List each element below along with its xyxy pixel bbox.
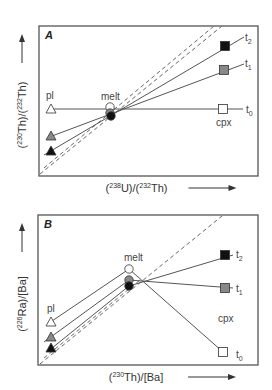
panel-a: Aplmeltcpxt0t1t2(238U)/(232Th)(230Th)/(2… [16, 26, 258, 194]
marker-pl-t2-triangle [46, 343, 56, 352]
marker-melt-t0-circle [125, 265, 133, 273]
label-t0: t0 [246, 104, 253, 117]
x-axis-label: (230Th)/[Ba] [109, 371, 163, 383]
label-t1: t1 [236, 283, 243, 296]
label-t1: t1 [245, 58, 252, 71]
marker-melt-t2-circle [125, 282, 133, 290]
diagram: Aplmeltcpxt0t1t2(238U)/(232Th)(230Th)/(2… [0, 0, 272, 390]
marker-cpx-t1-square [220, 66, 229, 75]
y-arrowhead-icon [19, 223, 25, 231]
isochron-line-t2 [44, 37, 244, 155]
label-t2: t2 [245, 32, 252, 45]
panel-label: B [44, 218, 52, 230]
equiline-dashed [40, 26, 222, 174]
label-cpx: cpx [218, 313, 234, 324]
marker-pl-t2-triangle [46, 146, 56, 155]
panel-b: Bplmeltcpxt0t1t2(230Th)/[Ba](226Ra)/[Ba] [16, 215, 258, 383]
marker-cpx-t0-square [219, 348, 228, 357]
marker-melt-t2-circle [107, 112, 115, 120]
label-melt: melt [124, 252, 143, 263]
label-pl: pl [47, 303, 55, 314]
label-t0: t0 [236, 349, 243, 362]
label-t2: t2 [236, 249, 243, 262]
label-cpx: cpx [216, 117, 232, 128]
panel-label: A [44, 29, 53, 41]
isochron-line-melt-pl-t1 [44, 280, 129, 342]
marker-cpx-t2-square [221, 42, 230, 51]
isochron-line-t2 [129, 255, 233, 286]
label-melt: melt [101, 91, 120, 102]
x-axis-label: (238U)/(232Th) [106, 182, 168, 194]
marker-pl-t0-triangle [46, 317, 56, 326]
x-arrowhead-icon [228, 374, 236, 380]
marker-cpx-t0-square [219, 105, 228, 114]
equiline-dashed [44, 26, 214, 168]
label-pl: pl [46, 90, 54, 101]
y-axis-label: (230Th)/(232Th) [16, 82, 28, 149]
equiline-dashed [44, 280, 140, 358]
x-arrowhead-icon [229, 185, 237, 191]
y-axis-label: (226Ra)/[Ba] [16, 276, 28, 332]
y-arrowhead-icon [19, 34, 25, 42]
marker-pl-t1-triangle [46, 332, 56, 341]
marker-cpx-t1-square [221, 284, 230, 293]
marker-cpx-t2-square [221, 251, 230, 260]
